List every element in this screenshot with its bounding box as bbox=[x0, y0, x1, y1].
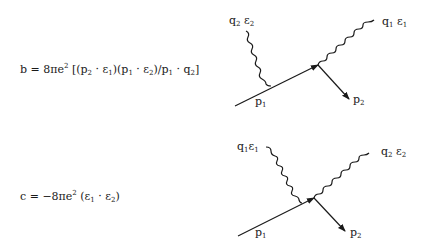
label-sub: 1 bbox=[254, 146, 258, 154]
top-photon-out-line bbox=[318, 20, 374, 65]
bottom-photon-out-line bbox=[314, 153, 369, 198]
bottom-q2-e2-label: q2 ε2 bbox=[381, 145, 406, 159]
label-sub: 2 bbox=[402, 151, 406, 159]
label-sub: 1 bbox=[262, 101, 266, 109]
top-photon-in-line bbox=[246, 31, 271, 86]
label-q: q bbox=[382, 15, 389, 28]
bottom-electron-out-line bbox=[314, 198, 345, 231]
feynman-diagrams bbox=[0, 0, 426, 242]
bottom-electron-in-line bbox=[238, 198, 314, 236]
bottom-q1-e1-label: q1ε1 bbox=[237, 140, 259, 154]
label-p: p bbox=[255, 226, 262, 239]
label-sub: 1 bbox=[403, 21, 407, 29]
top-electron-in-line bbox=[235, 65, 318, 106]
label-q: q bbox=[381, 145, 388, 158]
label-p: p bbox=[353, 93, 360, 106]
label-sub: 2 bbox=[388, 151, 392, 159]
top-p2-label: p2 bbox=[353, 93, 365, 107]
label-sub: 2 bbox=[360, 99, 364, 107]
label-p: p bbox=[350, 226, 357, 239]
label-sub: 1 bbox=[262, 232, 266, 240]
label-sub: 2 bbox=[250, 20, 254, 28]
bottom-p2-label: p2 bbox=[350, 226, 362, 240]
bottom-photon-in-line bbox=[266, 147, 302, 203]
label-p: p bbox=[255, 95, 262, 108]
top-p1-label: p1 bbox=[255, 95, 267, 109]
bottom-p1-label: p1 bbox=[255, 226, 267, 240]
label-sub: 2 bbox=[357, 232, 361, 240]
label-q: q bbox=[237, 140, 244, 153]
label-q: q bbox=[229, 14, 236, 27]
label-sub: 1 bbox=[389, 21, 393, 29]
top-q2-e2-label: q2 ε2 bbox=[229, 14, 254, 28]
top-electron-out-line bbox=[318, 65, 349, 99]
top-q1-e1-label: q1 ε1 bbox=[382, 15, 407, 29]
label-sub: 2 bbox=[236, 20, 240, 28]
